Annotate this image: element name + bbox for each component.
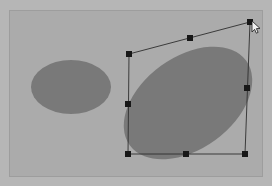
unselected-ellipse-shape[interactable] bbox=[31, 60, 111, 114]
application-window bbox=[0, 0, 272, 186]
drawing-canvas[interactable] bbox=[10, 11, 262, 176]
selected-ellipse-shape[interactable] bbox=[103, 23, 262, 176]
canvas-shape-layer bbox=[10, 11, 262, 176]
